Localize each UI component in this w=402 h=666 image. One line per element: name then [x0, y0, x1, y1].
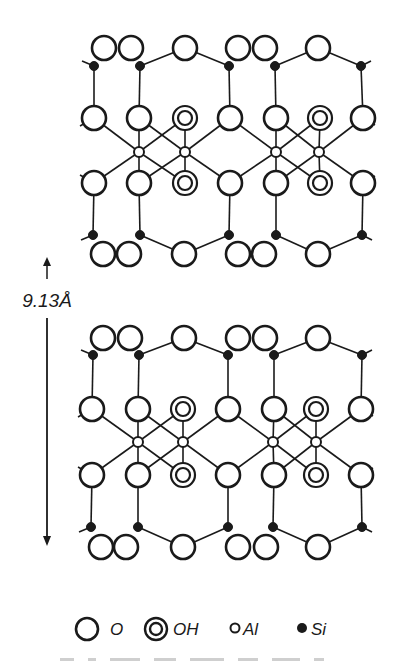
silicon-atom — [134, 523, 143, 532]
silicon-atom — [136, 62, 145, 71]
silicon-atom — [135, 351, 144, 360]
hydroxyl-inner-ring — [309, 468, 323, 482]
hydroxyl-inner-ring — [313, 111, 327, 125]
oxygen-atom — [89, 535, 113, 559]
legend-item-silicon: Si — [297, 620, 327, 639]
silicon-atom — [270, 351, 279, 360]
hydroxyl-inner-ring — [176, 402, 190, 416]
oxygen-atom — [92, 36, 116, 60]
aluminum-atom — [311, 437, 321, 447]
aluminum-atom — [178, 437, 188, 447]
silicon-atom — [271, 62, 280, 71]
silicon-atom — [358, 231, 367, 240]
oxygen-atom — [264, 106, 288, 130]
silicon-atom — [358, 523, 367, 532]
legend-label-hydroxyl: OH — [173, 620, 199, 639]
oxygen-atom — [218, 171, 242, 195]
legend-label-aluminum: Al — [242, 620, 259, 639]
aluminum-atom — [314, 147, 324, 157]
oxygen-atom — [262, 397, 286, 421]
oxygen-atom — [262, 463, 286, 487]
oxygen-atom — [253, 326, 277, 350]
oxygen-atom — [126, 397, 150, 421]
oxygen-atom — [226, 326, 250, 350]
oxygen-atom — [114, 535, 138, 559]
layer-spacing-dimension: 9.13Å — [22, 257, 72, 546]
oxygen-atom — [351, 106, 375, 130]
legend-silicon-dot — [297, 623, 307, 633]
hydroxyl-inner-ring — [178, 176, 192, 190]
legend-item-aluminum: Al — [231, 620, 260, 639]
oxygen-atom — [218, 106, 242, 130]
oxygen-atom — [127, 171, 151, 195]
atoms — [80, 36, 375, 559]
aluminum-atom-icon — [231, 624, 240, 633]
silicon-atom — [90, 62, 99, 71]
legend-item-oxygen: O — [76, 618, 123, 640]
oxygen-atom — [306, 242, 330, 266]
oxygen-atom — [351, 171, 375, 195]
oxygen-atom — [80, 463, 104, 487]
oxygen-atom — [173, 36, 197, 60]
oxygen-atom — [118, 326, 142, 350]
silicon-atom — [269, 523, 278, 532]
aluminum-atom — [133, 437, 143, 447]
oxygen-atom — [127, 106, 151, 130]
legend-label-silicon: Si — [311, 620, 327, 639]
silicon-atom — [225, 62, 234, 71]
legend-label-oxygen: O — [110, 620, 123, 639]
dimension-arrow-down-icon — [43, 536, 51, 546]
oxygen-atom — [306, 326, 330, 350]
oxygen-atom — [254, 535, 278, 559]
silicon-atom — [358, 351, 367, 360]
oxygen-atom — [216, 463, 240, 487]
aluminum-atom — [268, 437, 278, 447]
oxygen-atom — [253, 36, 277, 60]
hydroxyl-inner-ring — [309, 402, 323, 416]
oxygen-atom — [349, 397, 373, 421]
silicon-atom — [89, 231, 98, 240]
silicon-atom — [87, 523, 96, 532]
silicon-atom — [357, 62, 366, 71]
figure-caption-clipped — [60, 658, 390, 666]
oxygen-atom — [226, 242, 250, 266]
oxygen-atom — [306, 535, 330, 559]
aluminum-atom — [271, 147, 281, 157]
dimension-arrow-up-icon — [43, 257, 51, 266]
silicon-atom — [224, 523, 233, 532]
oxygen-atom — [252, 242, 276, 266]
oxygen-atom — [126, 463, 150, 487]
oxygen-atom — [80, 397, 104, 421]
legend-item-hydroxyl: OH — [145, 618, 199, 640]
legend-hydroxyl-inner — [150, 623, 162, 635]
silicon-atom — [89, 351, 98, 360]
oxygen-atom — [349, 463, 373, 487]
silicon-atom — [225, 231, 234, 240]
oxygen-atom — [306, 36, 330, 60]
oxygen-atom — [91, 326, 115, 350]
silicon-atom — [136, 231, 145, 240]
oxygen-atom — [226, 535, 250, 559]
silicon-atom — [272, 231, 281, 240]
oxygen-atom — [216, 397, 240, 421]
silicon-atom-icon — [297, 623, 307, 633]
oxygen-atom — [171, 535, 195, 559]
oxygen-atom — [82, 106, 106, 130]
legend-aluminum-ring — [231, 624, 240, 633]
hydroxyl-inner-ring — [176, 468, 190, 482]
hydroxyl-inner-ring — [178, 111, 192, 125]
oxygen-atom-icon — [76, 618, 98, 640]
oxygen-atom — [91, 242, 115, 266]
aluminum-atom — [134, 147, 144, 157]
oxygen-atom — [117, 242, 141, 266]
oxygen-atom — [119, 36, 143, 60]
oxygen-atom — [172, 242, 196, 266]
oxygen-atom — [264, 171, 288, 195]
oxygen-atom — [172, 326, 196, 350]
oxygen-atom — [82, 171, 106, 195]
legend-oxygen-circle — [76, 618, 98, 640]
oxygen-atom — [226, 36, 250, 60]
legend: O OH Al Si — [76, 618, 327, 640]
silicon-atom — [224, 351, 233, 360]
crystal-structure-diagram: 9.13Å O OH Al Si — [0, 0, 402, 666]
